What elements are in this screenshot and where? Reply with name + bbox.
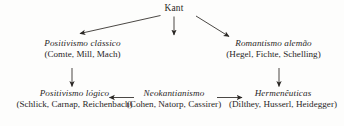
node-neokantianism-title: Neokantianismo (118, 89, 230, 99)
node-hermeneutics: Hermenêuticas (Dilthey, Husserl, Heidegg… (222, 89, 344, 110)
edge-kant-to-classical-positivism (80, 16, 161, 34)
node-hermeneutics-title: Hermenêuticas (222, 89, 344, 99)
node-kant: Kant (144, 3, 204, 13)
kant-influence-diagram: Kant Positivismo clássico (Comte, Mill, … (0, 0, 344, 126)
node-neokantianism: Neokantianismo (Cohen, Natorp, Cassirer) (118, 89, 230, 110)
node-classical-positivism: Positivismo clássico (Comte, Mill, Mach) (15, 39, 150, 60)
node-german-romanticism: Romantismo alemão (Hegel, Fichte, Schell… (205, 39, 342, 60)
node-german-romanticism-members: (Hegel, Fichte, Schelling) (205, 50, 342, 60)
node-kant-label: Kant (144, 3, 204, 13)
node-classical-positivism-title: Positivismo clássico (15, 39, 150, 49)
node-neokantianism-members: (Cohen, Natorp, Cassirer) (118, 100, 230, 110)
node-classical-positivism-members: (Comte, Mill, Mach) (15, 50, 150, 60)
edge-kant-to-german-romanticism (196, 16, 229, 37)
node-hermeneutics-members: (Dilthey, Husserl, Heidegger) (222, 100, 344, 110)
node-german-romanticism-title: Romantismo alemão (205, 39, 342, 49)
